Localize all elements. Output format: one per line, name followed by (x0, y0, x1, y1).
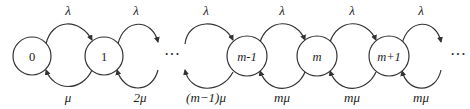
backward-arc-m-m-1 (260, 71, 305, 88)
backward-arc-m+1-m (330, 71, 376, 88)
state-transition-diagram: 0 1 m-1 m m+1 ··· ··· λ λ λ λ λ λ μ 2μ (… (0, 0, 470, 109)
state-label: 0 (29, 50, 35, 64)
state-node-1: 1 (85, 37, 123, 75)
state-node-m-1: m-1 (227, 36, 267, 76)
backward-rate-label: 2μ (133, 90, 147, 105)
backward-arc-dots-m+1 (402, 70, 441, 88)
forward-rate-label: λ (202, 3, 209, 18)
backward-arc-1-0 (46, 70, 92, 87)
forward-arc-m-1-m (260, 24, 305, 42)
state-label: m-1 (237, 50, 256, 64)
state-node-0: 0 (13, 37, 51, 75)
state-label: 1 (101, 50, 107, 64)
backward-rate-label: mμ (274, 90, 290, 105)
backward-rate-label: (m−1)μ (186, 90, 226, 105)
forward-rate-label: λ (64, 3, 71, 18)
forward-arc-m+1-dots (402, 24, 441, 44)
forward-arc-1-dots (118, 24, 158, 44)
forward-arc-0-1 (46, 24, 92, 44)
state-node-m+1: m+1 (369, 36, 409, 76)
ellipsis-dots: ··· (164, 46, 180, 63)
backward-rate-label: mμ (344, 90, 360, 105)
backward-rate-label: mμ (413, 90, 429, 105)
forward-rate-label: λ (278, 3, 285, 18)
state-node-m: m (297, 36, 337, 76)
backward-rate-label: μ (64, 90, 72, 105)
state-label: m+1 (377, 50, 401, 64)
forward-rate-label: λ (417, 3, 424, 18)
forward-rate-label: λ (348, 3, 355, 18)
backward-arc-m-1-dots (185, 70, 233, 88)
forward-arc-m-m+1 (330, 24, 376, 42)
forward-arc-dots-m-1 (185, 24, 233, 44)
ellipsis-dots: ··· (450, 46, 466, 63)
forward-rate-label: λ (132, 3, 139, 18)
state-label: m (312, 50, 321, 64)
backward-arc-dots-1 (117, 70, 158, 88)
